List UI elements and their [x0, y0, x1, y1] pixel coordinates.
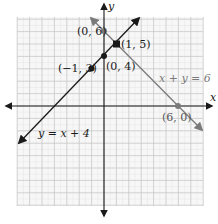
label-point-6-0: (6, 0) — [162, 111, 192, 124]
label-point-0-4: (0, 4) — [106, 60, 136, 73]
point-6-0 — [175, 103, 181, 109]
y-axis-label: y — [107, 0, 115, 13]
label-equation-x-plus-y-6: x + y = 6 — [159, 72, 211, 85]
x-axis-label: x — [210, 91, 217, 104]
point-0-4 — [101, 53, 107, 59]
label-equation-y-x-plus-4: y = x + 4 — [37, 127, 90, 140]
label-point-1-5: (1, 5) — [121, 38, 151, 51]
label-point-0-6: (0, 6) — [77, 25, 107, 38]
label-point-minus1-3: (−1, 3) — [58, 62, 97, 75]
point-1-5-intersection — [113, 41, 120, 48]
coordinate-plane-chart: x y (0, 6) (1, 5) (0, 4) (−1, 3) (6, 0) … — [0, 0, 218, 224]
